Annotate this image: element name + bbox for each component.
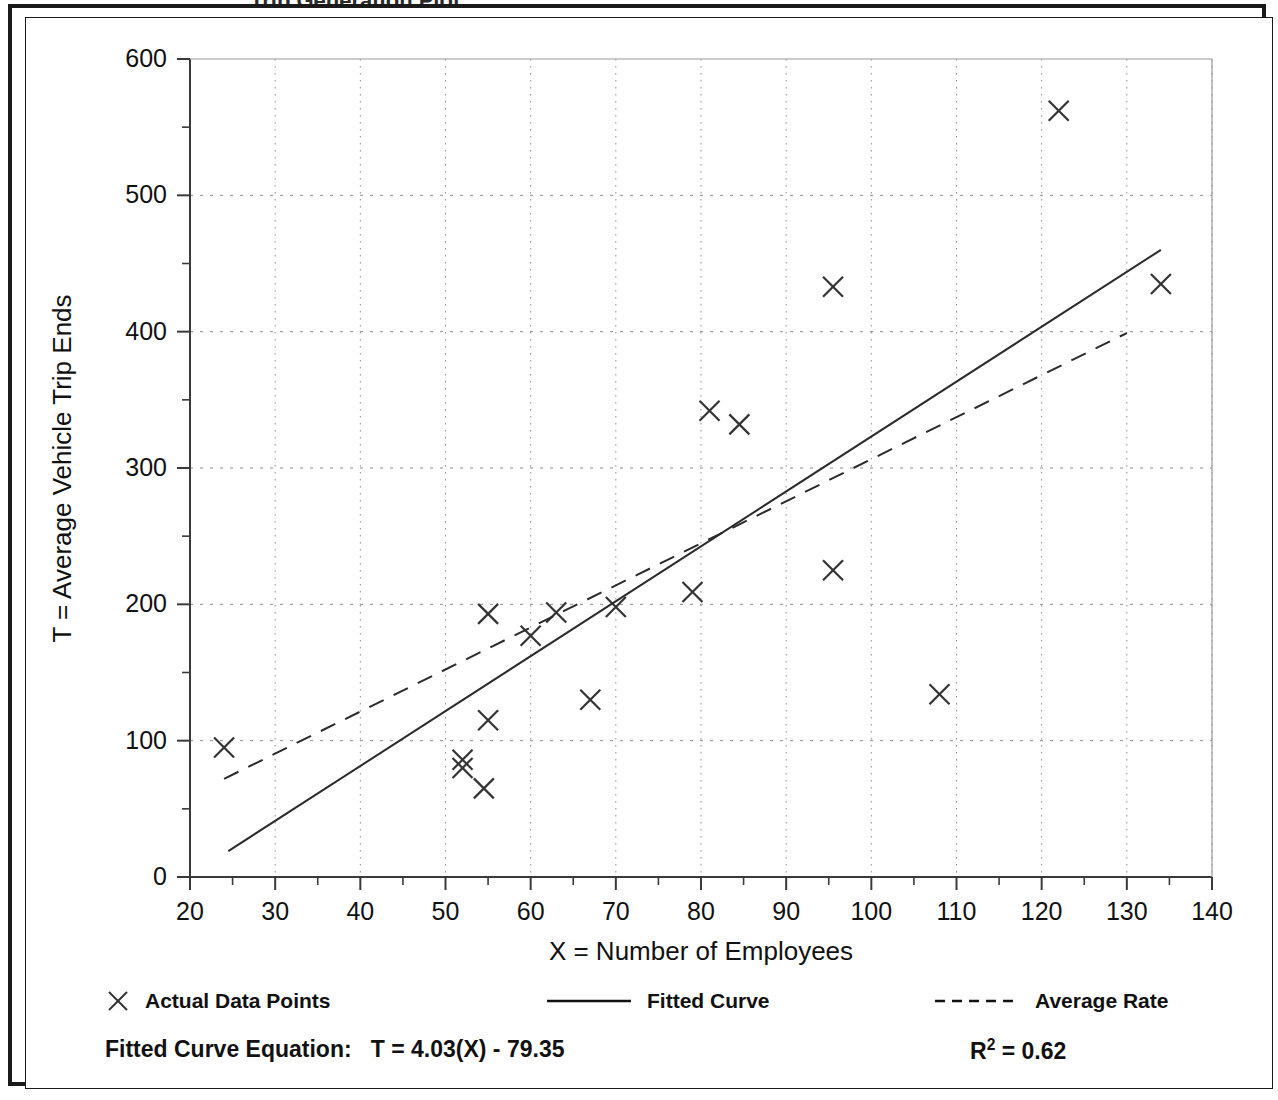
- y-tick-label: 500: [67, 182, 167, 207]
- scatter-chart: T = Average Vehicle Trip Ends X = Number…: [0, 0, 1278, 1100]
- data-point-marker: [929, 684, 949, 704]
- x-axis-label: X = Number of Employees: [190, 936, 1212, 967]
- grid-lines: [190, 59, 1212, 877]
- x-tick-label: 70: [576, 899, 656, 924]
- average-rate-line: [224, 333, 1127, 779]
- solid-line-icon: [545, 988, 633, 1014]
- data-point-marker: [1049, 101, 1069, 121]
- legend-item-average-rate: Average Rate: [933, 984, 1168, 1018]
- x-tick-label: 130: [1087, 899, 1167, 924]
- data-point-marker: [606, 597, 626, 617]
- data-point-markers: [214, 101, 1171, 799]
- data-point-marker: [546, 603, 566, 623]
- legend-label: Fitted Curve: [647, 989, 770, 1013]
- data-point-marker: [823, 560, 843, 580]
- fitted-curve-line: [228, 250, 1161, 851]
- dashed-line-icon: [933, 988, 1021, 1014]
- r-squared-label: R: [970, 1038, 987, 1064]
- figure-page: Trip Generation Plot T = Average Vehicle…: [0, 0, 1278, 1100]
- x-tick-label: 40: [320, 899, 400, 924]
- data-point-marker: [521, 626, 541, 646]
- legend-label: Average Rate: [1035, 989, 1168, 1013]
- y-tick-label: 100: [67, 728, 167, 753]
- r-squared-exponent: 2: [987, 1036, 996, 1053]
- y-tick-label: 200: [67, 591, 167, 616]
- axis-ticks: [177, 59, 1212, 890]
- data-point-marker: [700, 401, 720, 421]
- data-point-marker: [823, 277, 843, 297]
- data-point-marker: [729, 414, 749, 434]
- y-tick-label: 600: [67, 46, 167, 71]
- x-tick-label: 90: [746, 899, 826, 924]
- data-point-marker: [478, 710, 498, 730]
- x-tick-label: 30: [235, 899, 315, 924]
- data-point-marker: [214, 737, 234, 757]
- chart-footer: Fitted Curve Equation: T = 4.03(X) - 79.…: [105, 1036, 1225, 1072]
- legend-item-fitted-curve: Fitted Curve: [545, 984, 770, 1018]
- legend-label: Actual Data Points: [145, 989, 331, 1013]
- chart-legend: Actual Data Points Fitted Curve Average …: [105, 984, 1225, 1018]
- data-point-marker: [478, 604, 498, 624]
- legend-item-actual-data-points: Actual Data Points: [105, 984, 331, 1018]
- x-tick-label: 50: [406, 899, 486, 924]
- plot-svg-canvas: [0, 0, 1278, 1100]
- data-point-marker: [474, 778, 494, 798]
- x-tick-label: 60: [491, 899, 571, 924]
- equation-label: Fitted Curve Equation:: [105, 1036, 352, 1062]
- r-squared-statistic: R2 = 0.62: [970, 1036, 1066, 1065]
- x-tick-label: 120: [1002, 899, 1082, 924]
- x-tick-label: 80: [661, 899, 741, 924]
- x-tick-label: 100: [831, 899, 911, 924]
- data-point-marker: [580, 690, 600, 710]
- x-tick-label: 20: [150, 899, 230, 924]
- x-tick-label: 140: [1172, 899, 1252, 924]
- data-point-marker: [1151, 274, 1171, 294]
- r-squared-value: = 0.62: [1002, 1038, 1067, 1064]
- equation-expression: T = 4.03(X) - 79.35: [371, 1036, 565, 1062]
- data-point-marker: [682, 582, 702, 602]
- y-tick-label: 0: [67, 864, 167, 889]
- x-tick-label: 110: [917, 899, 997, 924]
- x-marker-icon: [105, 988, 131, 1014]
- fitted-curve-equation: Fitted Curve Equation: T = 4.03(X) - 79.…: [105, 1036, 564, 1063]
- y-tick-label: 300: [67, 455, 167, 480]
- y-tick-label: 400: [67, 319, 167, 344]
